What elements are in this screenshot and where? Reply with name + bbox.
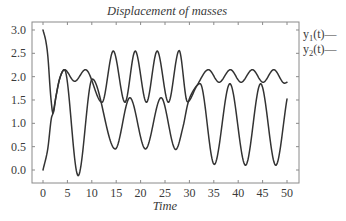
y-tick-label: 2.5 <box>11 46 26 60</box>
legend-item-y1: y1(t)— <box>303 27 338 43</box>
axis-ticks <box>32 22 299 183</box>
y-tick-label: 1.5 <box>11 93 26 107</box>
y-tick-label: 3.0 <box>11 23 26 37</box>
legend-label-tail: (t)— <box>313 27 337 41</box>
legend-label-tail: (t)— <box>313 42 337 56</box>
x-tick-label: 0 <box>40 186 46 200</box>
displacement-chart: Displacement of masses 05101520253035404… <box>0 0 346 221</box>
x-tick-label: 15 <box>110 186 122 200</box>
x-tick-label: 5 <box>64 186 70 200</box>
x-tick-label: 10 <box>86 186 98 200</box>
legend: y1(t)— y2(t)— <box>303 27 338 58</box>
x-tick-label: 20 <box>135 186 147 200</box>
series-y1-line <box>43 30 287 113</box>
x-axis-tick-labels: 05101520253035404550 <box>40 186 293 200</box>
x-tick-label: 40 <box>232 186 244 200</box>
y-tick-label: 2.0 <box>11 70 26 84</box>
plot-frame <box>32 22 299 183</box>
series-y2-line <box>43 70 287 176</box>
x-tick-label: 35 <box>208 186 220 200</box>
y-tick-label: 1.0 <box>11 116 26 130</box>
plot-curves <box>43 30 287 176</box>
x-axis-label: Time <box>153 199 178 213</box>
x-tick-label: 45 <box>257 186 269 200</box>
y-tick-label: 0.0 <box>11 163 26 177</box>
x-tick-label: 25 <box>159 186 171 200</box>
x-tick-label: 50 <box>281 186 293 200</box>
x-tick-label: 30 <box>183 186 195 200</box>
y-tick-label: 0.5 <box>11 140 26 154</box>
y-axis-tick-labels: 0.00.51.01.52.02.53.0 <box>11 23 26 177</box>
legend-item-y2: y2(t)— <box>303 42 338 58</box>
chart-title: Displacement of masses <box>106 4 227 18</box>
